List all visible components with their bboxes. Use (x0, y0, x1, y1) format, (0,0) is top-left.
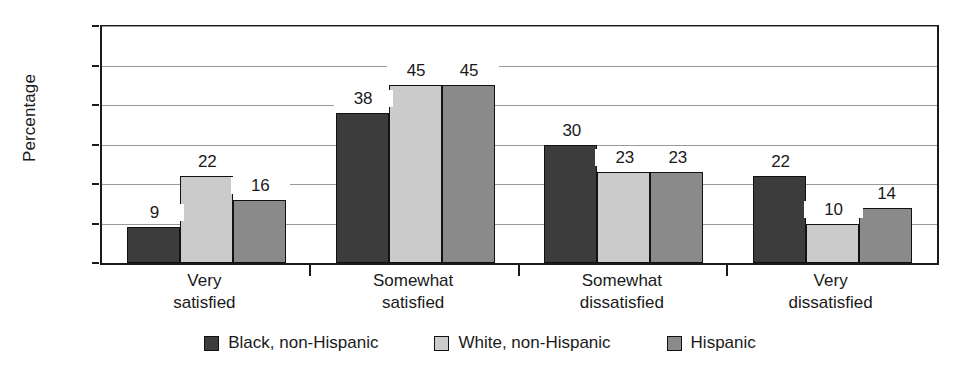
bar (442, 85, 495, 263)
bar-value-label: 14 (857, 185, 916, 202)
bar (650, 172, 703, 263)
y-tick-mark-10 (92, 223, 99, 225)
y-tick-mark-20 (92, 183, 99, 185)
bar-value-label: 9 (125, 204, 184, 221)
y-tick-mark-0 (92, 262, 99, 264)
legend-item: Hispanic (667, 333, 756, 353)
bar-value-label: 38 (334, 90, 393, 107)
y-axis-title: Percentage (20, 28, 40, 208)
x-category-label: Verydissatisfied (726, 270, 935, 314)
legend-label: Black, non-Hispanic (228, 333, 378, 353)
gridline-50 (102, 66, 937, 67)
x-category-label-line: dissatisfied (518, 292, 727, 314)
bar-value-label: 22 (178, 153, 237, 170)
bar (544, 145, 597, 264)
legend-item: White, non-Hispanic (434, 333, 610, 353)
x-category-label-line: Very (726, 270, 935, 292)
bar-value-label: 23 (648, 149, 707, 166)
x-category-label: Verysatisfied (100, 270, 309, 314)
bar (127, 227, 180, 263)
bar (336, 113, 389, 263)
legend-swatch-icon (434, 336, 449, 351)
bar-value-label: 16 (231, 177, 290, 194)
gridline-30 (102, 145, 937, 146)
x-category-label-line: Somewhat (518, 270, 727, 292)
legend-item: Black, non-Hispanic (204, 333, 378, 353)
x-category-label: Somewhatsatisfied (309, 270, 518, 314)
gridline-40 (102, 105, 937, 106)
x-category-label: Somewhatdissatisfied (518, 270, 727, 314)
bar-value-label: 22 (751, 153, 810, 170)
gridline-60 (102, 26, 937, 27)
x-category-label-line: satisfied (100, 292, 309, 314)
bar (233, 200, 286, 263)
legend-label: White, non-Hispanic (458, 333, 610, 353)
legend-swatch-icon (204, 336, 219, 351)
bar (859, 208, 912, 263)
x-category-label-line: Very (100, 270, 309, 292)
legend: Black, non-HispanicWhite, non-HispanicHi… (0, 333, 960, 353)
legend-label: Hispanic (691, 333, 756, 353)
plot-area (100, 25, 939, 265)
bar (180, 176, 233, 263)
x-category-label-line: Somewhat (309, 270, 518, 292)
bar (753, 176, 806, 263)
bar (597, 172, 650, 263)
x-category-label-line: satisfied (309, 292, 518, 314)
y-tick-mark-50 (92, 65, 99, 67)
bar-chart: Percentage 0102030405060 922163845453023… (0, 0, 960, 384)
bar-value-label: 10 (804, 201, 863, 218)
x-category-label-line: dissatisfied (726, 292, 935, 314)
bar (389, 85, 442, 263)
bar (806, 224, 859, 264)
y-tick-mark-30 (92, 144, 99, 146)
bar-value-label: 30 (542, 122, 601, 139)
bar-value-label: 45 (387, 62, 446, 79)
y-tick-mark-60 (92, 25, 99, 27)
legend-swatch-icon (667, 336, 682, 351)
bar-value-label: 45 (440, 62, 499, 79)
y-tick-mark-40 (92, 104, 99, 106)
bar-value-label: 23 (595, 149, 654, 166)
